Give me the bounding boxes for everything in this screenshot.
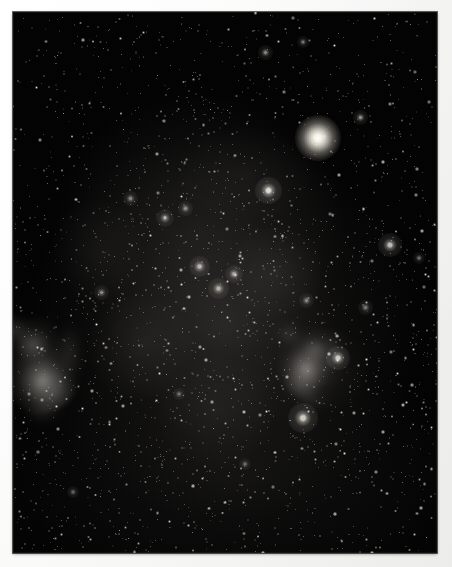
plate-edge (13, 12, 437, 553)
astrophoto-plate (13, 12, 437, 553)
page-root (0, 0, 452, 567)
